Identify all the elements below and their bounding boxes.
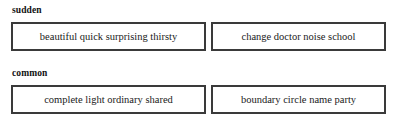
word-list-common-left: complete light ordinary shared <box>38 93 179 106</box>
word-group-page: sudden beautiful quick surprising thirst… <box>0 0 393 132</box>
word-list-sudden-left: beautiful quick surprising thirsty <box>34 30 183 43</box>
word-box-sudden-right[interactable]: change doctor noise school <box>211 22 386 51</box>
word-list-common-right: boundary circle name party <box>235 93 362 106</box>
box-row-common: complete light ordinary shared boundary … <box>0 85 393 115</box>
word-box-common-left[interactable]: complete light ordinary shared <box>11 85 206 114</box>
word-list-sudden-right: change doctor noise school <box>235 30 361 43</box>
group-heading-common: common <box>0 67 393 79</box>
word-box-sudden-left[interactable]: beautiful quick surprising thirsty <box>11 22 206 51</box>
word-group-sudden: sudden beautiful quick surprising thirst… <box>0 4 393 52</box>
group-heading-sudden: sudden <box>0 4 393 16</box>
box-row-sudden: beautiful quick surprising thirsty chang… <box>0 22 393 52</box>
word-box-common-right[interactable]: boundary circle name party <box>211 85 386 114</box>
word-group-common: common complete light ordinary shared bo… <box>0 67 393 115</box>
